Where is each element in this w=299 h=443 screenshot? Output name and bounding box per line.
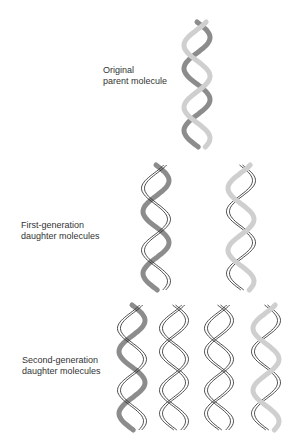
helix-second-0 <box>118 305 147 430</box>
old-strand <box>119 305 145 430</box>
old-strand <box>143 165 169 290</box>
helix-second-1 <box>160 305 189 430</box>
helix-second-3 <box>252 305 281 430</box>
old-strand <box>253 305 279 430</box>
dna-replication-diagram <box>0 0 299 443</box>
helix-first-1 <box>227 165 256 290</box>
helix-first-0 <box>142 165 171 290</box>
helix-second-2 <box>205 305 234 430</box>
helix-parent-0 <box>184 22 210 147</box>
old-strand <box>228 165 254 290</box>
